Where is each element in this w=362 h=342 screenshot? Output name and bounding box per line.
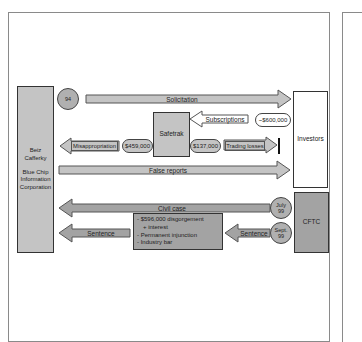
trading-losses-label: Trading losses [225,141,265,151]
penalty-item: - Permanent injunction [137,232,204,240]
civil-case-label: Civil case [72,204,272,212]
company-name-line: Beiz [20,147,51,155]
company-box: Beiz Cafferky Blue Chip Information Corp… [17,86,54,253]
investors-box: Investors [293,91,328,188]
subscriptions-label: Subscriptions [202,115,248,123]
company-name-line: Cafferky [20,155,51,163]
safetrak-box: Safetrak [153,112,190,157]
july-99-circle: July 99 [270,197,292,219]
year-94-label: 94 [65,96,71,102]
adjacent-frame [342,12,362,342]
subscriptions-amount: ~$600,000 [255,113,291,127]
safetrak-label: Safetrak [159,130,183,138]
sentence-left-label: Sentence [72,229,130,237]
year-94-circle: 94 [57,88,79,110]
misappropriation-label: Misappropriation [71,141,118,151]
cftc-box: CFTC [294,192,329,253]
sept-99-circle: Sept. 99 [270,222,292,244]
company-name-line: Blue Chip [20,169,51,177]
sentence-right-label: Sentence [238,229,270,237]
july-99-year: 99 [276,208,286,214]
misappropriation-amount: $459,000 [122,139,153,153]
false-reports-label: False reports [59,166,277,174]
penalties-box: - $596,000 disgorgement + interest - Per… [133,213,223,250]
penalty-item: + interest [137,224,204,232]
penalty-item: - $596,000 disgorgement [137,216,204,224]
trading-losses-stop-bar [278,138,280,154]
company-name-line: Corporation [20,184,51,192]
trading-amount: $137,000 [190,139,221,153]
investors-label: Investors [297,135,323,143]
solicitation-label: Solicitation [86,95,278,103]
company-name-line: Information [20,176,51,184]
cftc-label: CFTC [303,218,320,226]
penalty-item: - Industry bar [137,239,204,247]
sept-99-year: 99 [275,233,288,239]
